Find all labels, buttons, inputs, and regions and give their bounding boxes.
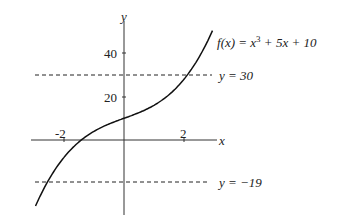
y-axis-label: y xyxy=(121,10,127,23)
y-tick-label-40: 40 xyxy=(104,47,117,60)
label-y30: y = 30 xyxy=(219,69,253,82)
y-tick-label-20: 20 xyxy=(104,91,117,104)
x-tick-label-2: 2 xyxy=(180,127,187,140)
chart-canvas xyxy=(0,0,345,219)
func-body: (x) = x xyxy=(221,35,256,50)
x-axis-label: x xyxy=(219,134,225,147)
label-yneg19: y = −19 xyxy=(219,176,262,189)
function-label: f(x) = x3 + 5x + 10 xyxy=(217,35,316,49)
func-tail: + 5x + 10 xyxy=(261,35,317,50)
x-tick-label-neg2: -2 xyxy=(55,127,66,140)
